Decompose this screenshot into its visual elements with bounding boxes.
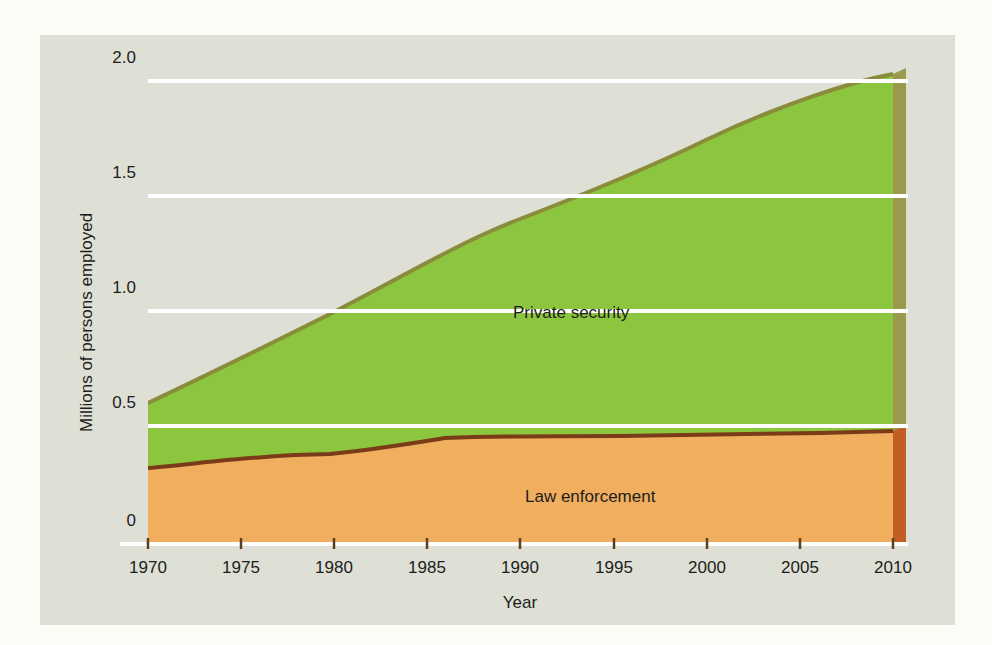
x-tick-label-1990: 1990 bbox=[485, 558, 555, 578]
x-tick-label-2010: 2010 bbox=[858, 558, 928, 578]
series-label-private-security: Private security bbox=[513, 303, 629, 323]
series-label-law-enforcement: Law enforcement bbox=[525, 487, 655, 507]
x-axis-title: Year bbox=[420, 593, 620, 613]
x-tick-label-1985: 1985 bbox=[392, 558, 462, 578]
right-edge-shading bbox=[893, 68, 906, 545]
y-tick-label-2-0: 2.0 bbox=[90, 48, 136, 68]
x-tick-label-1995: 1995 bbox=[579, 558, 649, 578]
figure-canvas: 2.0 1.5 1.0 0.5 0 Millions of persons em… bbox=[0, 0, 992, 645]
stacked-area-chart bbox=[0, 0, 992, 645]
y-tick-label-1-5: 1.5 bbox=[90, 163, 136, 183]
y-tick-label-0: 0 bbox=[90, 511, 136, 531]
x-tick-label-2005: 2005 bbox=[765, 558, 835, 578]
x-tick-label-1970: 1970 bbox=[113, 558, 183, 578]
x-tick-label-1980: 1980 bbox=[299, 558, 369, 578]
y-axis-title: Millions of persons employed bbox=[77, 213, 97, 432]
x-tick-label-2000: 2000 bbox=[672, 558, 742, 578]
x-tick-label-1975: 1975 bbox=[206, 558, 276, 578]
